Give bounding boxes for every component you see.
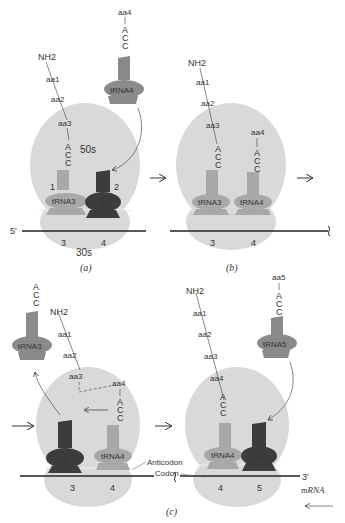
trna4-label: tRNA4	[101, 452, 125, 461]
trna4-label: tRNA4	[240, 198, 264, 207]
svg-text:3: 3	[70, 483, 75, 493]
svg-text:C: C	[117, 413, 124, 423]
panel-a: NH2 aa1 aa2 aa3 A C C 50s tRNA3 1 4 2 aa…	[10, 8, 146, 274]
panel-c-left: A C C tRNA3 NH2 aa1 aa2 aa3 aa4 A C C 3 …	[12, 282, 154, 507]
svg-text:3′: 3′	[302, 472, 309, 482]
aa3-label: aa3	[58, 119, 72, 128]
trna3-label: tRNA3	[198, 198, 222, 207]
codon-label: Codon	[155, 469, 179, 478]
aa4-label: aa4	[118, 8, 132, 17]
svg-text:C: C	[276, 307, 283, 317]
site-2-label: 2	[114, 182, 119, 192]
30s-label: 30s	[76, 247, 92, 258]
svg-text:aa3: aa3	[204, 352, 218, 361]
incoming-trna4: aa4 A C C tRNA4	[104, 8, 144, 104]
svg-text:5: 5	[256, 452, 261, 462]
nh2-label: NH2	[188, 58, 206, 68]
aa1-label: aa1	[196, 78, 210, 87]
svg-text:5: 5	[257, 483, 262, 493]
aa2-label: aa2	[51, 95, 65, 104]
aa3-label: aa3	[206, 121, 220, 130]
svg-text:tRNA5: tRNA5	[263, 340, 287, 349]
svg-text:aa1: aa1	[193, 309, 207, 318]
svg-text:aa4: aa4	[112, 379, 126, 388]
svg-text:3: 3	[62, 454, 67, 464]
anticodon-label: Anticodon	[147, 458, 183, 467]
aa2-label: aa2	[201, 99, 215, 108]
svg-text:aa5: aa5	[272, 273, 286, 282]
svg-text:NH2: NH2	[186, 286, 204, 296]
50s-label: 50s	[80, 144, 96, 155]
trna-a-number: 4	[100, 198, 105, 208]
mrna-label: mRNA	[301, 485, 325, 495]
svg-text:tRNA4: tRNA4	[211, 451, 235, 460]
panel-b-label: (b)	[226, 262, 238, 274]
codon-3: 3	[61, 238, 66, 248]
svg-text:C: C	[220, 408, 227, 418]
nh2-label: NH2	[38, 52, 56, 62]
acc-c2: C	[65, 158, 72, 168]
five-prime-label: 5′	[10, 226, 17, 236]
codon-4: 4	[101, 238, 106, 248]
svg-text:aa2: aa2	[63, 351, 77, 360]
svg-text:aa1: aa1	[58, 330, 72, 339]
panel-c-right: NH2 aa1 aa2 aa3 aa4 A C C tRNA4 5 aa5 A …	[174, 273, 333, 507]
svg-text:4: 4	[218, 483, 223, 493]
released-trna3-label: tRNA3	[18, 342, 42, 351]
trna4-incoming-label: tRNA4	[110, 86, 134, 95]
panel-c-label: (c)	[166, 506, 178, 518]
translation-diagram: NH2 aa1 aa2 aa3 A C C 50s tRNA3 1 4 2 aa…	[0, 0, 345, 523]
panel-b: NH2 aa1 aa2 aa3 A C C aa4 A C C tRNA3 tR…	[170, 58, 330, 274]
svg-text:C: C	[33, 298, 40, 308]
codon-3: 3	[210, 238, 215, 248]
panel-a-label: (a)	[80, 262, 92, 274]
nh2-label: NH2	[50, 307, 68, 317]
svg-text:aa4: aa4	[210, 374, 224, 383]
trna3-label: tRNA3	[52, 197, 76, 206]
codon-4: 4	[251, 238, 256, 248]
site-1-label: 1	[50, 182, 55, 192]
aa1-label: aa1	[46, 75, 60, 84]
svg-text:C: C	[122, 41, 129, 51]
aa4-label: aa4	[251, 128, 265, 137]
svg-text:C: C	[215, 160, 222, 170]
svg-text:aa2: aa2	[198, 330, 212, 339]
svg-text:4: 4	[110, 483, 115, 493]
svg-text:aa3: aa3	[69, 372, 83, 381]
